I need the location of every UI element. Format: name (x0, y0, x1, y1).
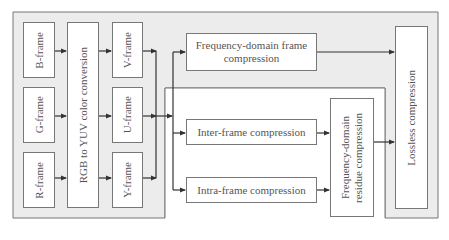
r-frame-box: R-frame (23, 152, 55, 208)
g-frame-box: G-frame (23, 87, 55, 143)
y-frame-box: Y-frame (112, 152, 143, 208)
v-frame-box: V-frame (112, 22, 143, 78)
inter-frame-box: Inter-frame compression (186, 119, 317, 145)
b-frame-label: B-frame (33, 32, 46, 69)
g-frame-label: G-frame (33, 96, 46, 133)
r-frame-label: R-frame (33, 162, 46, 199)
freq-residue-box: Frequency-domain residue compression (330, 98, 374, 217)
u-frame-label: U-frame (121, 96, 134, 133)
u-frame-box: U-frame (112, 87, 143, 143)
inter-frame-label: Inter-frame compression (197, 126, 305, 139)
rgb-to-yuv-label: RGB to YUV color conversion (77, 47, 90, 183)
y-frame-label: Y-frame (121, 162, 134, 198)
b-frame-box: B-frame (23, 22, 55, 78)
intra-frame-box: Intra-frame compression (186, 177, 317, 203)
lossless-box: Lossless compression (395, 26, 428, 209)
lossless-label: Lossless compression (405, 70, 418, 166)
intra-frame-label: Intra-frame compression (197, 184, 305, 197)
freq-frame-label: Frequency-domain frame compression (195, 39, 308, 65)
freq-frame-box: Frequency-domain frame compression (186, 33, 317, 71)
rgb-to-yuv-box: RGB to YUV color conversion (67, 22, 99, 208)
freq-residue-label: Frequency-domain residue compression (339, 103, 365, 212)
v-frame-label: V-frame (121, 32, 134, 68)
